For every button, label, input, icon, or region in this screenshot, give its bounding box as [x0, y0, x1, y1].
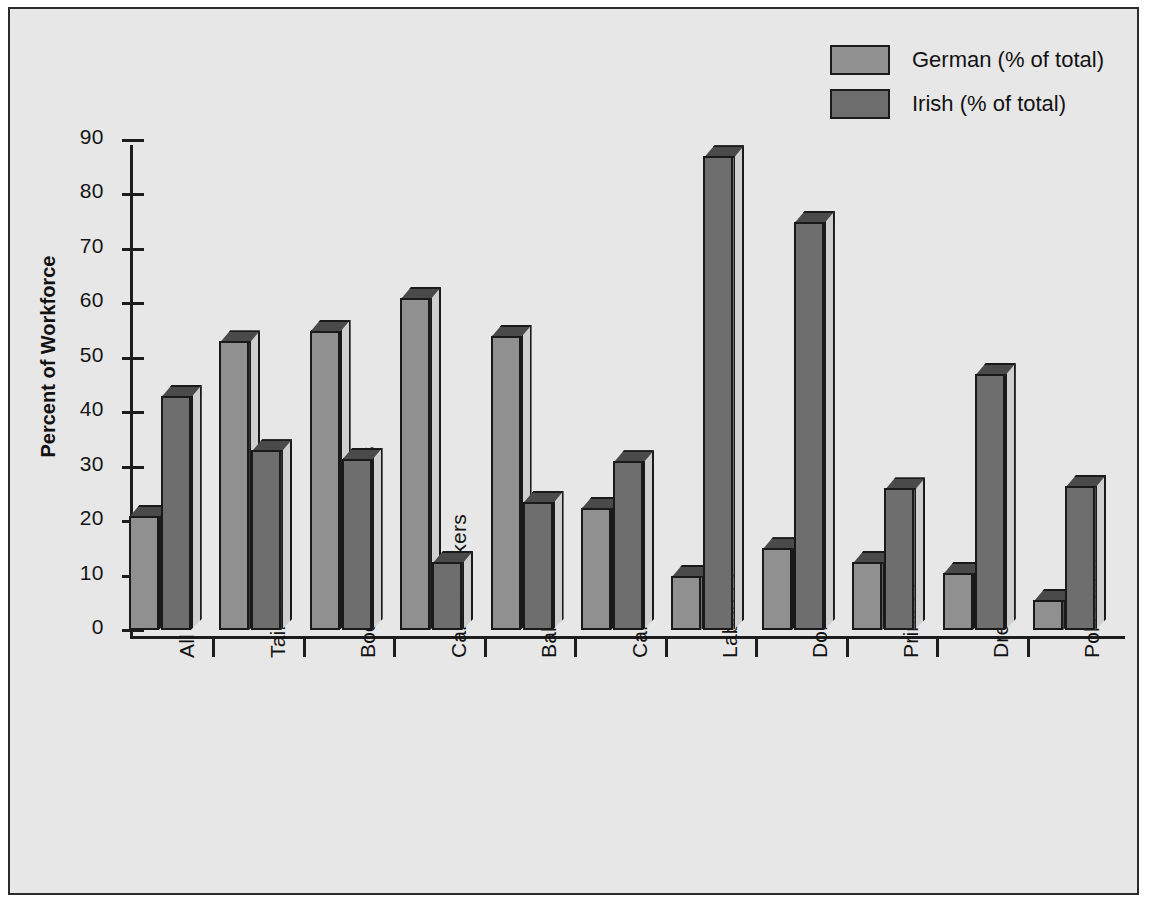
bar-front-face: [523, 502, 553, 630]
bar-side-face: [733, 145, 744, 630]
bar-irish-0: [161, 385, 202, 630]
legend-label-german: German (% of total): [912, 47, 1104, 73]
y-axis-tick-label: 0: [44, 615, 104, 639]
bar-front-face: [219, 341, 249, 630]
x-axis-tick: [755, 638, 758, 657]
bar-front-face: [129, 516, 159, 630]
legend-entry-irish: Irish (% of total): [830, 89, 1104, 119]
bar-irish-5: [613, 450, 654, 630]
bar-front-face: [342, 459, 372, 631]
y-axis-tick: [122, 193, 144, 196]
x-axis-tick: [1027, 638, 1030, 657]
bar-side-face: [462, 551, 473, 630]
legend-swatch-german: [830, 45, 890, 75]
x-axis-tick: [303, 638, 306, 657]
x-axis-tick: [936, 638, 939, 657]
bar-side-face: [824, 211, 835, 630]
y-axis-tick: [122, 302, 144, 305]
y-axis-tick-label: 10: [44, 561, 104, 585]
y-axis-tick-label: 70: [44, 234, 104, 258]
bar-front-face: [613, 461, 643, 630]
y-axis-tick-label: 30: [44, 452, 104, 476]
bar-side-face: [281, 439, 292, 630]
bar-irish-7: [794, 211, 835, 630]
bar-front-face: [161, 396, 191, 630]
bar-irish-8: [884, 477, 925, 630]
bar-front-face: [884, 488, 914, 630]
x-axis-tick: [212, 638, 215, 657]
bar-front-face: [975, 374, 1005, 630]
bar-front-face: [310, 331, 340, 630]
y-axis-tick-label: 20: [44, 506, 104, 530]
bar-side-face: [643, 450, 654, 630]
bar-irish-6: [703, 145, 744, 630]
bar-side-face: [1005, 363, 1016, 630]
bar-side-face: [1095, 475, 1106, 630]
bar-front-face: [251, 450, 281, 630]
y-axis-tick-label: 50: [44, 343, 104, 367]
x-axis-tick: [484, 638, 487, 657]
legend-swatch-irish: [830, 89, 890, 119]
bar-side-face: [191, 385, 202, 630]
bar-front-face: [491, 336, 521, 630]
y-axis-tick-label: 80: [44, 179, 104, 203]
bar-side-face: [553, 491, 564, 630]
bar-front-face: [943, 573, 973, 630]
legend: German (% of total) Irish (% of total): [830, 45, 1104, 133]
bar-irish-4: [523, 491, 564, 630]
bar-front-face: [400, 298, 430, 630]
x-axis-tick: [393, 638, 396, 657]
bar-front-face: [581, 508, 611, 631]
legend-label-irish: Irish (% of total): [912, 91, 1066, 117]
bar-front-face: [432, 562, 462, 630]
y-axis-tick: [122, 466, 144, 469]
bar-front-face: [762, 548, 792, 630]
bar-side-face: [914, 477, 925, 630]
bar-front-face: [852, 562, 882, 630]
y-axis-tick-label: 60: [44, 288, 104, 312]
bar-front-face: [1065, 486, 1095, 630]
bar-irish-9: [975, 363, 1016, 630]
bar-front-face: [671, 576, 701, 630]
bar-irish-3: [432, 551, 473, 630]
bar-front-face: [703, 156, 733, 630]
bar-front-face: [794, 222, 824, 630]
bar-irish-10: [1065, 475, 1106, 630]
x-axis-tick: [846, 638, 849, 657]
bar-irish-1: [251, 439, 292, 630]
y-axis-tick: [122, 248, 144, 251]
y-axis-tick: [122, 411, 144, 414]
y-axis-tick-label: 90: [44, 125, 104, 149]
x-axis-tick: [574, 638, 577, 657]
legend-entry-german: German (% of total): [830, 45, 1104, 75]
figure-frame: German (% of total) Irish (% of total) P…: [8, 7, 1139, 895]
y-axis-tick: [122, 357, 144, 360]
y-axis-tick-label: 40: [44, 397, 104, 421]
chart-page: German (% of total) Irish (% of total) P…: [0, 0, 1149, 908]
bar-irish-2: [342, 448, 383, 631]
bar-side-face: [372, 448, 383, 631]
y-axis-tick: [122, 139, 144, 142]
bar-front-face: [1033, 600, 1063, 630]
x-axis-tick: [665, 638, 668, 657]
